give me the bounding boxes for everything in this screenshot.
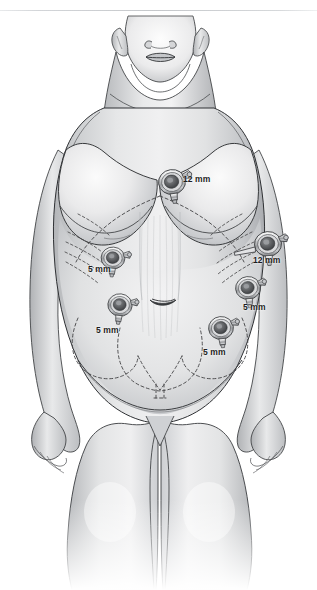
bottom-fade [0, 500, 317, 590]
patient-body-illustration [0, 0, 317, 590]
port-size-label-left-upper-quadrant-port: 5 mm [88, 265, 111, 274]
port-size-label-subxiphoid-camera-port: 12 mm [183, 175, 210, 184]
port-size-label-right-flank-port: 5 mm [243, 303, 266, 312]
illustration-figure: 12 mm5 mm12 mm5 mm5 mm5 mm [0, 0, 317, 590]
top-fade [0, 0, 317, 22]
port-size-label-right-lower-quadrant-port: 5 mm [203, 348, 226, 357]
port-size-label-right-upper-quadrant-port: 12 mm [253, 256, 280, 265]
port-size-label-left-lower-quadrant-port: 5 mm [96, 326, 119, 335]
